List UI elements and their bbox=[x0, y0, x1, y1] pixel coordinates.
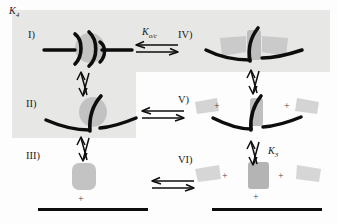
koc-label: Ko/c bbox=[142, 27, 157, 40]
membrane-left bbox=[38, 208, 148, 211]
right-arm-V bbox=[263, 117, 301, 127]
wing-right-detached-V bbox=[295, 98, 319, 114]
structure-state-I bbox=[42, 26, 134, 70]
subunit-blob-III bbox=[72, 163, 96, 190]
state-label-II: II) bbox=[26, 99, 37, 110]
arrow-II-to-III bbox=[76, 136, 94, 162]
state-label-I: I) bbox=[28, 30, 35, 41]
arrow-I-to-IV bbox=[134, 40, 180, 58]
arrow-III-to-VI bbox=[150, 176, 196, 194]
subunit-blob-VI bbox=[248, 162, 269, 189]
wing-right-detached-VI bbox=[296, 165, 321, 182]
state-label-IV: IV) bbox=[178, 30, 193, 41]
plus-sign-V-right: + bbox=[284, 101, 290, 111]
structure-state-IV bbox=[200, 24, 308, 70]
plus-sign-VI-left: + bbox=[222, 171, 228, 181]
wing-right-IV bbox=[262, 36, 288, 56]
arrow-IV-to-V bbox=[246, 69, 264, 95]
plus-sign-VI-right: + bbox=[278, 171, 284, 181]
k4-label: K4 bbox=[9, 6, 19, 19]
structure-state-III bbox=[62, 160, 106, 194]
structure-state-V bbox=[193, 92, 321, 138]
arrow-V-to-VI bbox=[246, 140, 264, 166]
plus-sign-V-left: + bbox=[214, 101, 220, 111]
state-label-VI: VI) bbox=[178, 155, 193, 166]
wing-left-detached-VI bbox=[195, 165, 221, 182]
arrow-I-to-II bbox=[76, 71, 94, 97]
arrow-II-to-V bbox=[140, 106, 186, 124]
membrane-right bbox=[212, 208, 322, 211]
left-arm-V bbox=[213, 118, 251, 129]
k3-label: K3 bbox=[268, 146, 278, 159]
plus-sign-VI-membrane: + bbox=[253, 192, 259, 202]
plus-sign-III: + bbox=[78, 194, 84, 204]
state-label-III: III) bbox=[26, 151, 40, 162]
wing-left-IV bbox=[220, 36, 246, 56]
diagram-canvas: K4 I) II) III) IV) V) VI) bbox=[0, 0, 338, 224]
state-label-V: V) bbox=[178, 95, 189, 106]
right-arm-II bbox=[100, 118, 136, 128]
structure-state-II bbox=[42, 92, 142, 138]
